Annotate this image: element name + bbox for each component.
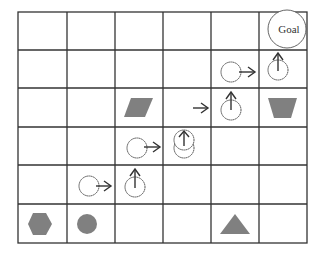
arrow-up-icon	[273, 53, 283, 71]
path-step-right	[79, 176, 111, 196]
grid-world-diagram: Goal	[0, 0, 321, 256]
path-step-right	[221, 62, 255, 82]
path-step-right	[127, 138, 160, 158]
grid-lines	[18, 12, 307, 243]
path-step-up	[221, 92, 241, 120]
trapezoid-obstacle-icon	[268, 98, 297, 118]
circle-obstacle-icon	[77, 214, 97, 234]
path-step-up	[174, 130, 194, 158]
arrow-right-icon	[239, 67, 255, 77]
arrow-up-icon	[130, 169, 140, 188]
triangle-obstacle-icon	[220, 214, 250, 234]
parallelogram-obstacle-icon	[124, 98, 153, 117]
path-step-up	[125, 169, 145, 197]
arrow-right-icon	[193, 103, 208, 113]
path-step-up	[268, 53, 288, 80]
agent-circle-icon	[221, 62, 241, 82]
hexagon-obstacle-icon	[28, 213, 52, 235]
agent-circle-icon	[127, 138, 147, 158]
path-steps	[79, 53, 288, 197]
goal-marker: Goal	[268, 10, 306, 48]
goal-label: Goal	[278, 23, 299, 35]
path-step-right	[193, 103, 208, 113]
